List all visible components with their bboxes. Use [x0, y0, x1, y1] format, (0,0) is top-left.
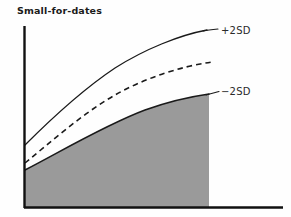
chart-figure: Small-for-dates +2SD −2SD — [0, 0, 291, 217]
plus-2sd-label: +2SD — [221, 25, 251, 36]
minus-2sd-label: −2SD — [221, 86, 251, 97]
minus-2sd-leader-line — [206, 92, 219, 96]
shaded-small-for-dates-region — [25, 94, 209, 208]
